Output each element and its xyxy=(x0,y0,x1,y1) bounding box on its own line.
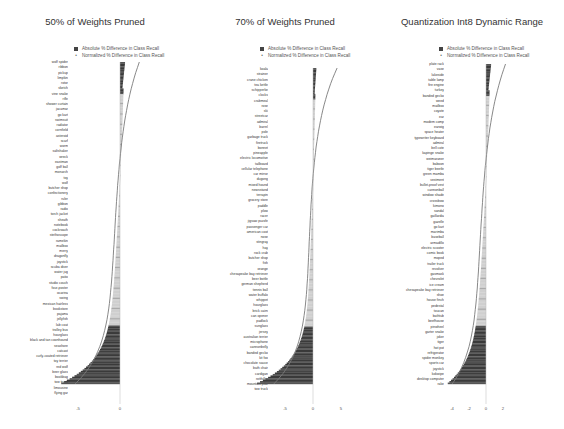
bar xyxy=(95,356,120,358)
bar xyxy=(113,289,120,291)
bar xyxy=(477,314,486,316)
bar xyxy=(96,355,120,357)
bar xyxy=(294,354,313,356)
bar xyxy=(120,121,122,123)
legend-item-absolute: Absolute % Difference in Class Recall xyxy=(74,45,164,52)
bar xyxy=(306,319,313,321)
bar xyxy=(113,296,120,298)
bar xyxy=(483,233,486,235)
bar xyxy=(455,375,486,377)
bar xyxy=(117,232,120,234)
bar xyxy=(486,108,489,110)
bar xyxy=(486,90,490,92)
bar xyxy=(477,316,486,318)
bar xyxy=(115,260,120,262)
bar xyxy=(118,211,120,213)
bar xyxy=(486,109,489,111)
bar xyxy=(313,114,315,116)
bar xyxy=(482,255,486,257)
bar xyxy=(483,231,486,233)
bar xyxy=(112,304,120,306)
dot-marker-icon: • xyxy=(439,52,443,59)
bar xyxy=(113,293,120,295)
bar xyxy=(308,299,313,301)
bar xyxy=(120,94,123,96)
bar xyxy=(120,140,122,142)
bar xyxy=(117,236,120,238)
bar xyxy=(115,261,120,263)
bar xyxy=(313,110,315,112)
bar xyxy=(120,104,123,106)
bar xyxy=(294,352,313,354)
bar xyxy=(482,252,486,254)
bar xyxy=(486,121,489,123)
x-tick-label: 0 xyxy=(312,406,315,411)
bar xyxy=(486,70,490,72)
bar xyxy=(486,129,488,131)
bar xyxy=(484,217,486,219)
bar xyxy=(484,221,486,223)
bar xyxy=(481,268,486,270)
bar xyxy=(310,269,313,271)
bar xyxy=(303,331,313,333)
bar xyxy=(120,72,124,74)
bar xyxy=(486,80,489,82)
bar xyxy=(120,118,123,120)
bar xyxy=(473,340,486,342)
bar xyxy=(313,85,315,87)
bar xyxy=(107,331,120,333)
bar xyxy=(486,74,490,76)
bar xyxy=(476,324,486,326)
bar xyxy=(120,126,122,128)
bar xyxy=(460,369,486,371)
bar xyxy=(313,117,315,119)
bar xyxy=(467,356,486,358)
bar xyxy=(313,102,315,104)
bar xyxy=(313,91,315,93)
bar xyxy=(474,336,486,338)
bar xyxy=(308,291,313,293)
bar xyxy=(309,278,313,280)
bar xyxy=(120,102,123,104)
bar xyxy=(477,313,486,315)
bar xyxy=(470,351,486,353)
bar xyxy=(475,332,486,334)
bar xyxy=(478,307,486,309)
bar xyxy=(309,288,313,290)
bar xyxy=(120,99,123,101)
bar xyxy=(486,122,488,124)
bar xyxy=(311,239,313,241)
bar xyxy=(486,99,489,101)
bar xyxy=(486,64,491,66)
bar xyxy=(88,365,120,367)
bar xyxy=(311,235,313,237)
bar xyxy=(120,78,123,80)
bar xyxy=(118,222,120,224)
bar xyxy=(486,95,489,97)
bar xyxy=(484,215,486,217)
bar xyxy=(105,337,120,339)
bar xyxy=(112,306,120,308)
bar xyxy=(313,69,316,71)
bar xyxy=(308,295,313,297)
bar xyxy=(310,268,313,270)
bar xyxy=(486,115,489,117)
bar xyxy=(486,73,490,75)
bar xyxy=(120,125,122,127)
bar xyxy=(486,134,488,136)
bar xyxy=(117,233,120,235)
bar xyxy=(309,272,313,274)
chart-panel-quantization: Quantization Int8 Dynamic Range Absolute… xyxy=(380,0,564,429)
bar xyxy=(486,76,490,78)
bar xyxy=(486,137,488,139)
bar xyxy=(465,361,486,363)
bar xyxy=(310,253,313,255)
bar xyxy=(475,327,486,329)
bar xyxy=(117,230,120,232)
bar xyxy=(310,255,313,257)
bar xyxy=(473,339,486,341)
bar xyxy=(110,318,120,320)
bar xyxy=(486,127,488,129)
bar xyxy=(478,305,486,307)
bar xyxy=(100,349,120,351)
